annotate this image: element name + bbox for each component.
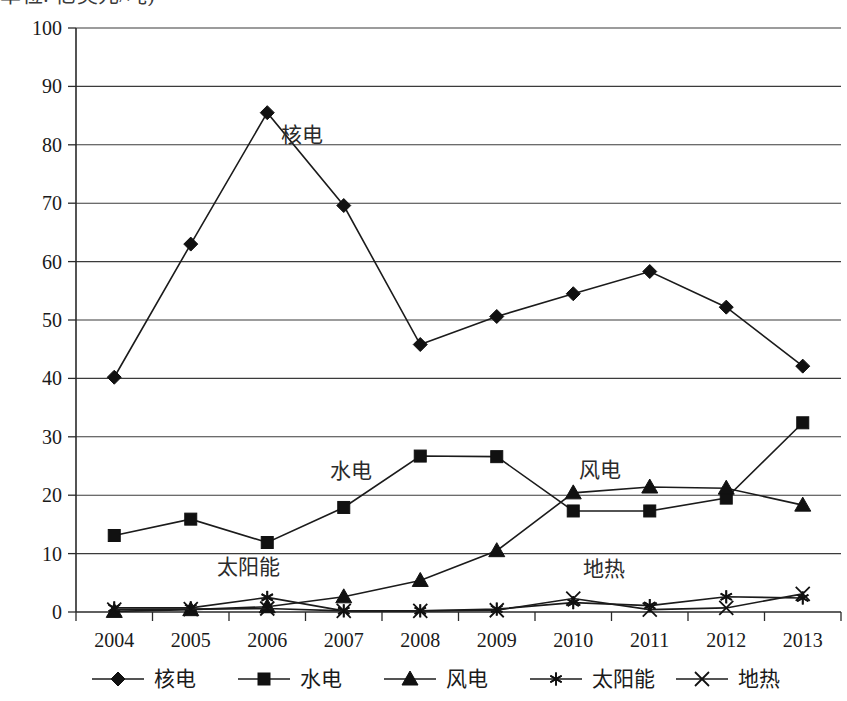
marker-square <box>261 537 273 549</box>
legend-item-地热[interactable]: 地热 <box>676 667 780 690</box>
y-axis-tick-label: 20 <box>42 484 62 506</box>
y-axis-tick-label: 50 <box>42 309 62 331</box>
y-axis-tick-label: 30 <box>42 426 62 448</box>
marker-diamond <box>413 338 427 352</box>
y-axis-tick-label: 80 <box>42 134 62 156</box>
line-chart-svg: 0102030405060708090100 20042005200620072… <box>0 0 847 701</box>
marker-diamond <box>566 287 580 301</box>
legend-item-水电[interactable]: 水电 <box>238 667 342 690</box>
x-axis-tick-label: 2011 <box>630 629 669 651</box>
marker-diamond <box>643 265 657 279</box>
x-axis-tick-label: 2005 <box>171 629 211 651</box>
marker-square <box>567 505 579 517</box>
series-polyline <box>114 594 803 611</box>
inline-label-风电: 风电 <box>579 458 621 481</box>
x-axis-tick-label: 2013 <box>783 629 823 651</box>
inline-label-太阳能: 太阳能 <box>217 555 280 578</box>
marker-diamond <box>184 237 198 251</box>
series-polyline <box>114 423 803 543</box>
legend-label: 水电 <box>300 667 342 690</box>
x-axis-tick-label: 2004 <box>94 629 134 651</box>
y-axis-tick-label: 0 <box>52 601 62 623</box>
marker-triangle <box>718 480 734 494</box>
marker-square <box>108 529 120 541</box>
y-axis-tick-label: 40 <box>42 367 62 389</box>
marker-square <box>491 451 503 463</box>
chart-container: 单位: 亿美元/吨) 0102030405060708090100 200420… <box>0 0 847 701</box>
legend-label: 风电 <box>446 667 488 690</box>
legend-item-风电[interactable]: 风电 <box>384 667 488 690</box>
series-风电 <box>106 479 811 617</box>
y-axis-tick-labels: 0102030405060708090100 <box>32 17 62 623</box>
inline-label-地热: 地热 <box>583 557 625 580</box>
marker-triangle <box>489 543 505 557</box>
series-polyline <box>114 487 803 611</box>
inline-label-水电: 水电 <box>330 459 372 482</box>
legend-label: 太阳能 <box>592 667 655 690</box>
y-axis-tick-label: 100 <box>32 17 62 39</box>
marker-diamond <box>796 359 810 373</box>
marker-square <box>797 417 809 429</box>
marker-triangle <box>402 671 418 685</box>
x-axis-tick-label: 2010 <box>553 629 593 651</box>
data-series <box>106 106 811 618</box>
y-axis-tick-label: 10 <box>42 543 62 565</box>
axes <box>68 28 841 621</box>
x-axis-tick-label: 2009 <box>477 629 517 651</box>
marker-diamond <box>107 370 121 384</box>
x-axis-tick-label: 2006 <box>247 629 287 651</box>
series-核电 <box>107 106 810 385</box>
inline-label-核电: 核电 <box>281 123 323 146</box>
marker-square <box>414 450 426 462</box>
marker-diamond <box>111 672 125 686</box>
marker-square <box>258 673 270 685</box>
x-axis-tick-label: 2012 <box>706 629 746 651</box>
gridlines <box>76 28 841 554</box>
marker-diamond <box>490 309 504 323</box>
legend-item-核电[interactable]: 核电 <box>92 667 196 690</box>
marker-diamond <box>719 300 733 314</box>
marker-square <box>644 505 656 517</box>
marker-square <box>338 501 350 513</box>
y-axis-tick-label: 90 <box>42 75 62 97</box>
series-polyline <box>114 113 803 378</box>
y-axis-tick-label: 60 <box>42 251 62 273</box>
x-axis-tick-label: 2008 <box>400 629 440 651</box>
legend-label: 核电 <box>154 667 196 690</box>
legend-label: 地热 <box>738 667 780 690</box>
marker-triangle <box>642 479 658 493</box>
chart-legend[interactable]: 核电水电风电太阳能地热 <box>92 667 780 690</box>
marker-square <box>185 513 197 525</box>
y-axis-tick-label: 70 <box>42 192 62 214</box>
legend-item-太阳能[interactable]: 太阳能 <box>530 667 655 690</box>
x-axis-tick-labels: 2004200520062007200820092010201120122013 <box>94 629 823 651</box>
x-axis-tick-label: 2007 <box>324 629 364 651</box>
marker-triangle <box>412 572 428 586</box>
